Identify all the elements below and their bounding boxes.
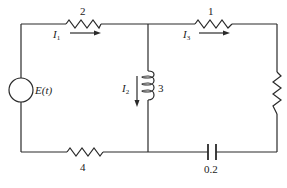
resistor-2-label: 2	[80, 5, 86, 17]
circuit-diagram: 2 I1 1 I3 E(t) 3 I2	[0, 0, 287, 188]
current-i2-arrow-icon	[135, 76, 140, 107]
current-i1-label: I1	[52, 28, 61, 42]
resistor-4	[67, 148, 103, 156]
current-i3-arrow-icon	[199, 31, 230, 36]
inductor-3-label: 3	[158, 82, 164, 94]
inductor-3	[142, 71, 154, 100]
capacitor-label: 0.2	[204, 163, 218, 175]
resistor-1-label: 1	[208, 5, 214, 17]
resistor-4-label: 4	[80, 161, 86, 173]
voltage-source-icon	[9, 78, 33, 102]
resistor-2	[66, 20, 101, 28]
current-i1-arrow-icon	[70, 31, 101, 36]
source-label: E(t)	[34, 84, 52, 97]
resistor-1	[195, 20, 232, 28]
current-i2-label: I2	[121, 82, 130, 96]
current-i3-label: I3	[182, 28, 191, 42]
resistor-right	[273, 72, 281, 114]
capacitor-icon	[208, 144, 216, 160]
